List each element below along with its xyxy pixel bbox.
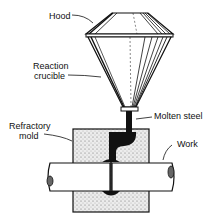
hood-leader: [72, 15, 93, 23]
work-leader: [163, 145, 172, 160]
reaction-crucible: [88, 37, 171, 111]
refractory-mold-label-line1: Refractory: [9, 121, 51, 131]
refractory-mold-leader: [44, 134, 72, 141]
reaction-crucible-label-line1: Reaction: [33, 61, 69, 71]
work-pipes: [47, 160, 174, 192]
hood: [86, 13, 173, 37]
work-label: Work: [177, 139, 198, 149]
molten-steel-leader: [136, 117, 152, 119]
refractory-mold-label-line2: mold: [19, 131, 39, 141]
reaction-crucible-label-line2: crucible: [34, 71, 65, 81]
crucible-leader: [68, 75, 101, 77]
hood-label: Hood: [49, 11, 71, 21]
molten-steel-label: Molten steel: [154, 111, 203, 121]
